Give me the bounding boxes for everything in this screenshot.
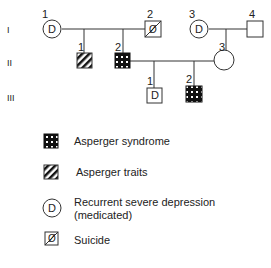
legend-label-depression: Recurrent severe depression xyxy=(74,196,215,209)
number-III-2: 2 xyxy=(186,74,192,85)
legend-label-depression-note: (medicated) xyxy=(74,209,132,222)
individual-II-3 xyxy=(214,50,234,70)
legend-label-asperger-traits: Asperger traits xyxy=(76,166,148,179)
generation-label-II: II xyxy=(7,58,12,68)
individual-II-1 xyxy=(77,53,92,68)
number-II-1: 1 xyxy=(78,42,84,53)
legend-circle-d-letter: D xyxy=(48,203,56,214)
individual-II-2 xyxy=(115,53,130,68)
generation-label-III: III xyxy=(7,93,15,103)
marker-slash-I-2: Ø xyxy=(149,24,157,35)
number-II-3: 3 xyxy=(219,42,225,53)
generation-label-I: I xyxy=(7,25,10,35)
legend-hatched-square-icon xyxy=(44,165,58,179)
marker-d-III-1: D xyxy=(151,90,159,101)
number-II-2: 2 xyxy=(115,42,121,53)
pedigree-chart xyxy=(0,0,271,268)
number-III-1: 1 xyxy=(147,76,153,87)
individual-I-4 xyxy=(247,21,263,37)
legend-dotted-square-icon xyxy=(44,134,58,148)
legend-label-asperger-syndrome: Asperger syndrome xyxy=(74,135,170,148)
number-I-4: 4 xyxy=(249,9,255,20)
legend-slash-glyph: Ø xyxy=(48,233,56,244)
number-I-3: 3 xyxy=(189,9,195,20)
legend-label-suicide: Suicide xyxy=(74,234,110,247)
number-I-1: 1 xyxy=(42,9,48,20)
marker-d-I-3: D xyxy=(195,24,203,35)
marker-d-I-1: D xyxy=(48,24,56,35)
number-I-2: 2 xyxy=(147,9,153,20)
individual-III-2 xyxy=(186,86,202,102)
